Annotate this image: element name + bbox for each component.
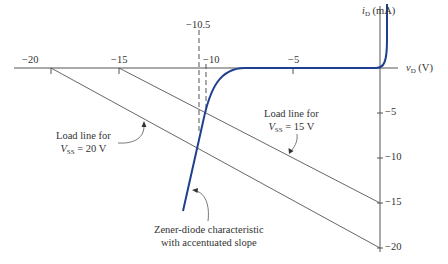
x-axis-label: vD (V) — [406, 63, 433, 75]
x-tick-label-minus20: −20 — [22, 55, 38, 66]
x-tick-label-minus10: −10 — [203, 55, 219, 66]
annotation-load-line-15v: Load line for VSS = 15 V — [264, 107, 319, 137]
load20-arrowhead-icon — [142, 121, 147, 127]
marker-label-minus10-5: −10.5 — [186, 20, 210, 31]
annotation-load-line-20v: Load line for VSS = 20 V — [56, 129, 111, 159]
annotation-zener-characteristic: Zener-diode characteristic with accentua… — [154, 223, 264, 249]
x-tick-label-minus15: −15 — [111, 55, 127, 66]
y-tick-label-minus5: −5 — [385, 107, 396, 118]
zener-leader-arrow — [196, 191, 208, 221]
load-line-vss-15 — [119, 68, 380, 203]
x-tick-label-minus5: −5 — [288, 55, 299, 66]
zener-arrowhead-icon — [192, 188, 198, 193]
y-axis-label: iD (mA) — [362, 6, 395, 18]
y-tick-label-minus20: −20 — [385, 242, 401, 253]
load20-leader-arrow — [118, 124, 144, 143]
y-tick-label-minus10: −10 — [385, 152, 401, 163]
y-tick-label-minus15: −15 — [385, 197, 401, 208]
